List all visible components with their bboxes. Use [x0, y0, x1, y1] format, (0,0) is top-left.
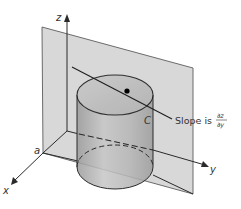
diagram-canvas: z x y a C Slope is ∂z ∂y	[0, 0, 241, 209]
slope-prefix: Slope is	[175, 115, 212, 126]
slope-numerator: ∂z	[217, 112, 224, 120]
x-axis	[11, 153, 43, 185]
z-axis-label: z	[55, 12, 62, 23]
top-surface	[77, 75, 153, 115]
point-a-label: a	[34, 145, 40, 156]
point-on-curve	[124, 88, 129, 93]
curve-c-label: C	[144, 115, 151, 126]
x-axis-label: x	[2, 185, 9, 196]
y-axis-label: y	[209, 164, 217, 175]
slope-denominator: ∂y	[217, 121, 224, 129]
